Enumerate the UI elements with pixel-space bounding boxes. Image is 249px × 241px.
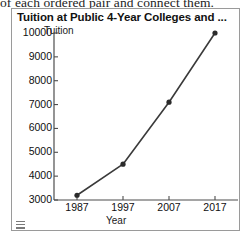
panel-footer (12, 223, 240, 231)
chart-panel: Tuition at Public 4-Year Colleges and ..… (11, 8, 240, 231)
data-point-marker (120, 162, 125, 167)
data-point-marker (212, 30, 217, 35)
data-series-markers (74, 30, 217, 197)
data-point-marker (74, 193, 79, 198)
data-point-marker (166, 100, 171, 105)
line-chart-graphic (12, 9, 240, 231)
plot-area: Tuition Year 100009000800070006000500040… (12, 9, 240, 231)
resize-grip-icon[interactable] (16, 221, 25, 229)
data-series-line (77, 33, 215, 195)
chart-axes (54, 33, 238, 200)
